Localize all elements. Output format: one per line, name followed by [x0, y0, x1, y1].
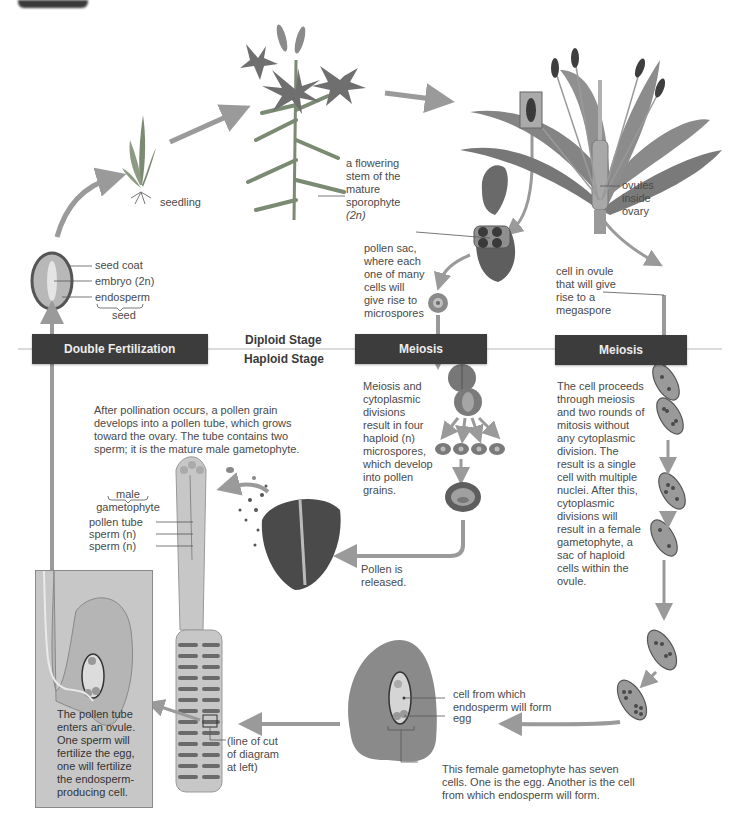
male-gametophyte-parts: pollen tube sperm (n) sperm (n) [89, 516, 143, 552]
arrow-pollen-to-tube [228, 484, 268, 492]
arrow-to-gametophyte [510, 722, 620, 724]
anther-illustration [474, 165, 515, 282]
egg-label: egg [453, 712, 471, 725]
arrow-seed-to-seedling [57, 178, 112, 237]
ovule-female-gametophyte [348, 640, 437, 762]
endosperm-cell-label: cell from whichendosperm will form [453, 688, 551, 714]
pollen-sac-label: pollen sac,where eachone of manycells wi… [364, 242, 425, 320]
line-of-cut-label: (line of cutof diagramat left) [227, 735, 279, 774]
female-gametophyte-description: This female gametophyte has sevencells. … [442, 763, 635, 802]
seedling-label: seedling [160, 196, 201, 209]
pollination-description: After pollination occurs, a pollen grain… [94, 404, 299, 456]
arrow-seedling-to-plant [170, 112, 237, 142]
male-meiosis-description: Meiosis andcytoplasmicdivisionsresult in… [363, 380, 433, 497]
arrow-pollen-released [345, 520, 463, 556]
pollen-released-label: Pollen isreleased. [361, 563, 406, 589]
diploid-stage-label: Diploid Stage [245, 333, 322, 347]
male-gametophyte-title: malegametophyte [82, 488, 174, 514]
meiosis-female-bar: Meiosis [555, 335, 687, 365]
microspores [435, 443, 505, 455]
sporophyte-label: a floweringstem of thematuresporophyte(2… [346, 157, 400, 222]
double-fertilization-label: Double Fertilization [32, 342, 175, 356]
seedling-illustration [122, 115, 156, 204]
arrow-anther-to-pollen-sac [512, 130, 532, 230]
pollen-tube-illustration [176, 457, 222, 792]
arrow-plant-to-flower [385, 93, 440, 100]
female-meiosis-description: The cell proceedsthrough meiosisand two … [557, 380, 644, 588]
arrow-ovary-to-ovule [598, 212, 655, 262]
meiosis-male-bar: Meiosis [355, 334, 487, 364]
inset-description: The pollen tubeenters an ovule.One sperm… [57, 708, 149, 799]
cell-in-ovule-label: cell in ovulethat will giverise to amega… [556, 265, 616, 317]
meiosis-male-label: Meiosis [399, 342, 443, 356]
arrow-sac-to-microspore [440, 255, 470, 282]
meiosis-female-label: Meiosis [599, 343, 643, 357]
seed-labels: seed coat embryo (2n) endosperm seed [95, 259, 154, 322]
double-fertilization-bar: Double Fertilization [32, 334, 208, 364]
ovules-label: ovulesinsideovary [622, 179, 654, 218]
haploid-stage-label: Haploid Stage [244, 352, 324, 366]
